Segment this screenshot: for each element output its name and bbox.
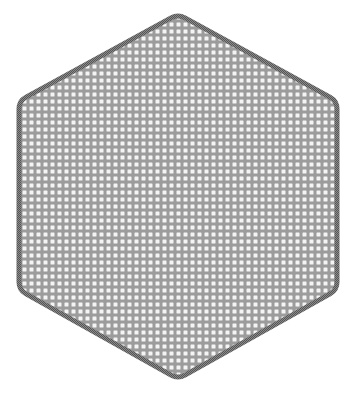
hexagon-artwork xyxy=(0,0,356,393)
hexagon-fill xyxy=(19,16,337,377)
